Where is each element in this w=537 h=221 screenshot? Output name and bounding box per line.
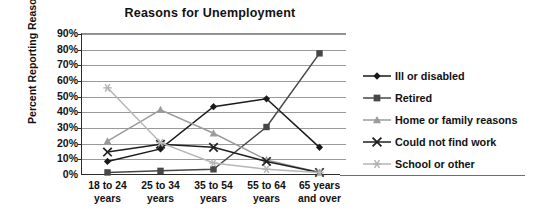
legend-label: Home or family reasons — [395, 114, 517, 126]
legend-label: Ill or disabled — [395, 70, 465, 82]
x-tick-label: 65 yearsand over — [288, 180, 352, 205]
data-point-square — [263, 124, 269, 130]
y-tick-label: 60% — [57, 75, 78, 85]
legend-item-home-or-family-reasons[interactable]: Home or family reasons — [362, 109, 534, 131]
y-tick-label: 10% — [57, 153, 78, 163]
x-tick-label-line: 65 years — [288, 180, 352, 193]
legend-label: Could not find work — [395, 136, 496, 148]
data-point-triangle — [210, 129, 218, 136]
chart-container: Reasons for Unemployment Percent Reporti… — [0, 0, 537, 221]
legend-marker-asterisk-icon — [362, 156, 392, 172]
legend-item-ill-or-disabled[interactable]: Ill or disabled — [362, 65, 534, 87]
y-tick-label: 90% — [57, 28, 78, 38]
legend-marker-triangle-icon — [362, 112, 392, 128]
data-point-square — [316, 50, 322, 56]
y-tick-label: 50% — [57, 91, 78, 101]
y-tick-label: 20% — [57, 138, 78, 148]
legend-item-could-not-find-work[interactable]: Could not find work — [362, 131, 534, 153]
y-tick-label: 70% — [57, 59, 78, 69]
data-point-asterisk — [262, 166, 270, 173]
data-point-triangle — [157, 106, 165, 113]
chart-series-layer — [81, 33, 346, 174]
x-axis-tick-labels: 18 to 24years25 to 34years35 to 54years5… — [81, 180, 346, 216]
y-axis-tick-labels: 90%80%70%60%50%40%30%20%10%0% — [38, 27, 78, 179]
data-point-diamond — [373, 72, 381, 80]
legend-label: School or other — [395, 158, 475, 170]
y-tick-label: 40% — [57, 106, 78, 116]
data-point-asterisk — [373, 160, 382, 168]
data-point-square — [157, 168, 163, 174]
x-axis-line-extension — [340, 175, 525, 176]
legend-marker-x-icon — [362, 134, 392, 150]
chart-title: Reasons for Unemployment — [0, 6, 420, 20]
legend-item-school-or-other[interactable]: School or other — [362, 153, 534, 175]
legend-marker-diamond-icon — [362, 68, 392, 84]
data-point-asterisk — [209, 159, 217, 166]
series-home-or-family-reasons — [104, 106, 324, 176]
legend-marker-square-icon — [362, 90, 392, 106]
chart-legend: Ill or disabledRetiredHome or family rea… — [362, 65, 534, 175]
y-tick-label: 80% — [57, 44, 78, 54]
x-tick-label-line: and over — [288, 193, 352, 206]
y-tick-label: 30% — [57, 122, 78, 132]
data-point-square — [210, 166, 216, 172]
data-point-square — [374, 95, 381, 102]
legend-label: Retired — [395, 92, 432, 104]
data-point-triangle — [104, 137, 112, 144]
data-point-square — [104, 169, 110, 175]
data-point-diamond — [104, 158, 111, 165]
y-tick-label: 0% — [63, 169, 78, 179]
series-retired — [104, 50, 322, 175]
legend-item-retired[interactable]: Retired — [362, 87, 534, 109]
y-axis-label: Percent Reporting Reason — [26, 0, 38, 131]
